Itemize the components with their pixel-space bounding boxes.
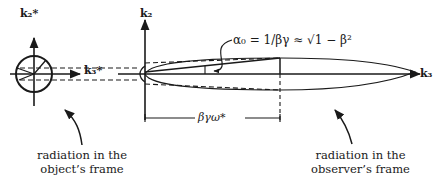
caption-line: radiation in the — [22, 148, 142, 162]
object-caption-pointer — [65, 110, 82, 145]
angle-formula: α₀ = 1/βγ ≈ √1 − β² — [233, 34, 352, 46]
object-frame-figure — [10, 38, 140, 106]
k2-label: k₂ — [140, 8, 152, 20]
caption-line: observer’s frame — [298, 162, 423, 176]
caption-line: radiation in the — [298, 148, 423, 162]
observer-frame-caption: radiation in the observer’s frame — [298, 148, 423, 176]
object-frame-caption: radiation in the object’s frame — [22, 148, 142, 176]
k2-star-label: k₂* — [20, 8, 38, 20]
caption-line: object’s frame — [22, 162, 142, 176]
k3-label: k₃ — [420, 68, 432, 80]
observer-caption-pointer — [335, 110, 352, 144]
length-label: βγω* — [198, 112, 225, 124]
formula-pointer — [214, 40, 232, 71]
k3-star-label: k₃* — [84, 65, 102, 77]
